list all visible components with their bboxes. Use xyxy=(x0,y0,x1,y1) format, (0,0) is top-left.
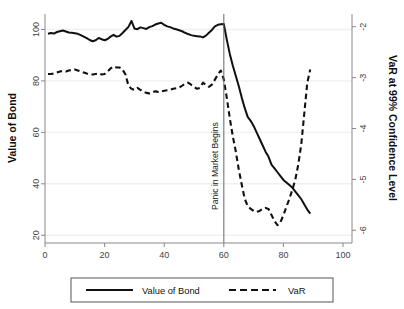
y2-tick-label: -5 xyxy=(358,175,368,183)
y2-tick-label: -2 xyxy=(358,23,368,31)
x-tick-label: 60 xyxy=(219,250,229,260)
y-tick-label: 20 xyxy=(31,230,41,240)
y-tick-label: 40 xyxy=(31,179,41,189)
x-tick-label: 80 xyxy=(278,250,288,260)
x-tick-label: 0 xyxy=(42,250,47,260)
x-tick-label: 40 xyxy=(159,250,169,260)
y2-tick-label: -6 xyxy=(358,226,368,234)
chart-figure: Panic in Market Begins 20406080100-2-3-4… xyxy=(0,0,404,309)
y-tick-label: 80 xyxy=(31,76,41,86)
chart-canvas: Panic in Market Begins 20406080100-2-3-4… xyxy=(0,0,404,309)
legend-label-value-of-bond: Value of Bond xyxy=(142,286,200,296)
legend-label-var: VaR xyxy=(288,286,306,296)
y2-axis-title: VaR at 99% Confidence Level xyxy=(387,55,399,201)
y-axis-title: Value of Bond xyxy=(6,93,18,163)
y2-tick-label: -4 xyxy=(358,124,368,132)
x-tick-label: 20 xyxy=(100,250,110,260)
y-tick-label: 60 xyxy=(31,127,41,137)
y2-tick-label: -3 xyxy=(358,74,368,82)
x-tick-label: 100 xyxy=(336,250,351,260)
annotation-label: Panic in Market Begins xyxy=(210,122,220,210)
legend: Value of Bond VaR xyxy=(71,278,333,302)
y-tick-label: 100 xyxy=(31,22,41,37)
